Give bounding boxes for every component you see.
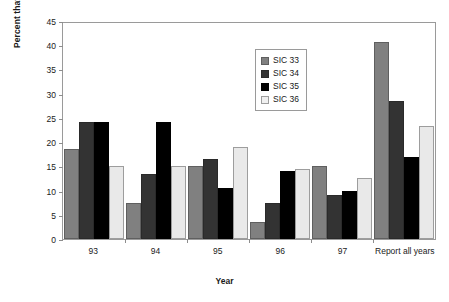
- bar-sic-36-96[interactable]: [295, 169, 310, 239]
- bar-chart: Percent that stopped reporting Year 0510…: [0, 0, 449, 302]
- legend-label-sic-35: SIC 35: [273, 81, 299, 92]
- legend-item: SIC 34: [261, 67, 299, 80]
- bar-sic-35-95[interactable]: [218, 188, 233, 239]
- x-tick-label: Report all years: [374, 246, 436, 257]
- bar-group: [311, 23, 373, 239]
- bar-sic-33-97[interactable]: [312, 166, 327, 239]
- bar-sic-36-93[interactable]: [109, 166, 124, 239]
- legend-swatch-sic-36: [261, 96, 269, 104]
- x-axis-title: Year: [0, 276, 449, 286]
- y-tick-label: 15: [47, 162, 56, 173]
- y-tick-label: 10: [47, 187, 56, 198]
- bar-group: [125, 23, 187, 239]
- bar-sic-33-93[interactable]: [64, 149, 79, 239]
- y-tick-label: 25: [47, 114, 56, 125]
- x-tick-mark: [249, 239, 250, 243]
- plot-area: 051015202530354045: [62, 22, 436, 240]
- bar-sic-34-93[interactable]: [79, 122, 94, 239]
- x-tick-label: 96: [249, 246, 311, 257]
- bar-sic-36-97[interactable]: [357, 178, 372, 239]
- x-tick-label: 94: [124, 246, 186, 257]
- bar-group: [187, 23, 249, 239]
- legend-label-sic-34: SIC 34: [273, 68, 299, 79]
- bar-group: [63, 23, 125, 239]
- bar-sic-34-96[interactable]: [265, 203, 280, 239]
- y-tick-label: 0: [51, 235, 56, 246]
- bar-sic-33-95[interactable]: [188, 166, 203, 239]
- legend-swatch-sic-33: [261, 57, 269, 65]
- bar-sic-35-96[interactable]: [280, 171, 295, 239]
- legend-item: SIC 36: [261, 93, 299, 106]
- y-tick-label: 45: [47, 17, 56, 28]
- x-tick-label: 95: [187, 246, 249, 257]
- x-axis-tick-labels: 9394959697Report all years: [62, 246, 436, 257]
- bar-sic-36-95[interactable]: [233, 147, 248, 239]
- legend-swatch-sic-34: [261, 70, 269, 78]
- legend-item: SIC 35: [261, 80, 299, 93]
- y-tick-label: 35: [47, 65, 56, 76]
- y-tick-label: 20: [47, 138, 56, 149]
- bar-groups: [63, 23, 435, 239]
- bar-sic-34-95[interactable]: [203, 159, 218, 239]
- bar-sic-35-93[interactable]: [94, 122, 109, 239]
- x-tick-label: 97: [311, 246, 373, 257]
- legend-swatch-sic-35: [261, 83, 269, 91]
- x-tick-label: 93: [62, 246, 124, 257]
- x-tick-mark: [187, 239, 188, 243]
- bar-sic-33-96[interactable]: [250, 222, 265, 239]
- bar-sic-34-97[interactable]: [327, 195, 342, 239]
- y-tick-label: 40: [47, 41, 56, 52]
- bar-sic-36-94[interactable]: [171, 166, 186, 239]
- bar-sic-35-94[interactable]: [156, 122, 171, 239]
- x-tick-mark: [125, 239, 126, 243]
- x-tick-mark: [311, 239, 312, 243]
- bar-sic-36-report-all-years[interactable]: [419, 126, 434, 239]
- x-tick-mark: [373, 239, 374, 243]
- y-tick-label: 5: [51, 211, 56, 222]
- bar-sic-34-report-all-years[interactable]: [389, 101, 404, 239]
- bar-sic-35-report-all-years[interactable]: [404, 157, 419, 239]
- legend-label-sic-33: SIC 33: [273, 55, 299, 66]
- bar-group: [373, 23, 435, 239]
- legend: SIC 33 SIC 34 SIC 35 SIC 36: [255, 49, 307, 111]
- bar-sic-35-97[interactable]: [342, 191, 357, 239]
- legend-label-sic-36: SIC 36: [273, 94, 299, 105]
- y-tick-label: 30: [47, 90, 56, 101]
- bar-sic-33-94[interactable]: [126, 203, 141, 239]
- legend-item: SIC 33: [261, 54, 299, 67]
- bar-sic-33-report-all-years[interactable]: [374, 42, 389, 239]
- bar-sic-34-94[interactable]: [141, 174, 156, 239]
- y-axis-title: Percent that stopped reporting: [12, 0, 22, 48]
- y-tick-mark: [59, 240, 63, 241]
